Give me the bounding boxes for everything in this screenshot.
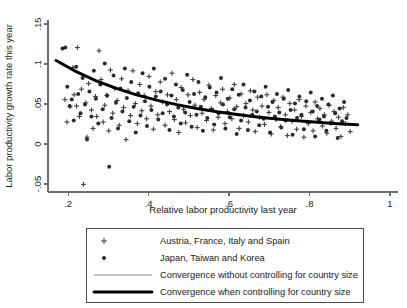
data-point-dot [74,65,78,69]
data-point-dot [315,104,319,108]
data-point-dot [291,133,295,137]
data-point-dot [279,126,283,130]
data-point-dot [107,165,111,169]
legend-item-label: Convergence without controlling for coun… [160,270,358,280]
data-point-dot [92,69,96,73]
data-point-dot [331,94,335,98]
data-point-dot [326,102,330,106]
data-point-dot [116,126,120,130]
data-point-dot [89,114,93,118]
y-tick-label: .15 [32,17,43,30]
data-point-dot [190,125,194,129]
data-point-dot [286,88,290,92]
data-point-dot [129,80,133,84]
data-point-dot [152,66,156,70]
data-point-dot [87,90,91,94]
data-point-dot [228,115,232,119]
data-point-dot [252,90,256,94]
data-point-dot [143,99,147,103]
data-point-dot [194,113,198,117]
data-point-dot [320,97,324,101]
data-point-dot [338,106,342,110]
data-point-dot [282,97,286,101]
y-axis-title: Labor productivity growth rate this year [3,24,14,188]
data-point-dot [120,110,124,114]
data-point-dot [174,82,178,86]
data-point-dot [322,114,326,118]
data-point-dot [134,130,138,134]
data-point-dot [123,66,127,70]
data-point-dot [239,118,243,122]
legend-dot-icon [102,256,106,260]
data-point-dot [215,90,219,94]
data-point-dot [237,93,241,97]
data-point-dot [244,106,248,110]
data-point-dot [163,77,167,81]
data-point-dot [139,114,143,118]
data-point-dot [230,87,234,91]
data-point-dot [103,62,107,66]
data-point-dot [72,118,76,122]
data-point-dot [76,92,80,96]
data-point-dot [181,88,185,92]
y-tick-label: .1 [32,60,43,68]
x-tick-label: .2 [64,198,72,209]
data-point-dot [275,92,279,96]
data-point-dot [161,111,165,115]
data-point-dot [105,94,109,98]
y-tick-label: .05 [32,97,43,110]
data-point-dot [342,100,346,104]
data-point-dot [183,110,187,114]
data-point-dot [299,113,303,117]
data-point-dot [235,132,239,136]
data-point-dot [172,114,176,118]
data-point-dot [311,110,315,114]
data-point-dot [259,94,263,98]
data-point-dot [264,85,268,89]
data-point-dot [112,74,116,78]
data-point-dot [304,99,308,103]
data-point-dot [313,134,317,138]
data-point-dot [70,98,74,102]
data-point-dot [309,90,313,94]
data-point-dot [297,94,301,98]
data-point-dot [221,102,225,106]
data-point-dot [85,138,89,142]
legend-item-label: Austria, France, Italy and Spain [160,236,290,246]
data-point-dot [114,101,118,105]
x-tick-label: .8 [306,198,314,209]
data-point-dot [219,76,223,80]
data-point-dot [167,128,171,132]
data-point-dot [145,124,149,128]
data-point-dot [132,105,136,109]
data-point-dot [94,97,98,101]
data-point-dot [196,80,200,84]
data-point-dot [268,130,272,134]
data-point-dot [203,95,207,99]
legend: Austria, France, Italy and SpainJapan, T… [86,228,363,302]
data-point-dot [246,128,250,132]
x-axis-title: Relative labor productivity last year [149,204,296,215]
data-point-dot [336,136,340,140]
data-point-dot [248,98,252,102]
legend-item-label: Convergence when controlling for country… [160,287,351,297]
data-point-dot [63,46,67,50]
data-point-dot [324,129,328,133]
y-tick-label: 0 [32,141,43,146]
data-point-dot [65,85,69,89]
y-tick-label: -.05 [32,176,43,192]
data-point-dot [156,118,160,122]
data-point-dot [208,86,212,90]
data-point-dot [159,90,163,94]
scatter-chart: .2.4.6.81 -.050.05.1.15 Relative labor p… [0,0,407,308]
data-point-dot [68,104,72,108]
data-point-dot [125,96,129,100]
data-point-dot [212,122,216,126]
legend-item-label: Japan, Taiwan and Korea [160,253,266,263]
data-point-dot [201,129,205,133]
data-point-dot [149,108,153,112]
data-point-dot [257,123,261,127]
data-point-dot [345,116,349,120]
data-point-dot [277,110,281,114]
data-point-dot [293,102,297,106]
